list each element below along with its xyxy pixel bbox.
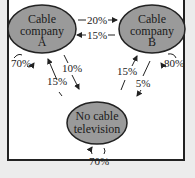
edge-a-self-loop: 70% <box>11 54 34 69</box>
svg-text:20%: 20% <box>87 14 107 26</box>
svg-text:10%: 10% <box>62 62 82 74</box>
svg-text:70%: 70% <box>11 57 31 69</box>
edge-n-to-b: 15% <box>117 56 137 90</box>
node-no-cable-television: No cable television <box>67 102 127 144</box>
svg-text:80%: 80% <box>164 57 184 69</box>
svg-text:15%: 15% <box>87 29 107 41</box>
edge-b-to-a: 15% <box>77 29 115 41</box>
node-cable-company-a: Cable company A <box>8 5 76 53</box>
svg-text:A: A <box>38 35 47 49</box>
svg-text:B: B <box>148 35 156 49</box>
svg-text:5%: 5% <box>136 77 151 89</box>
node-cable-company-b: Cable company B <box>119 5 185 53</box>
svg-text:70%: 70% <box>89 155 109 167</box>
svg-text:television: television <box>74 122 121 136</box>
svg-text:No cable: No cable <box>76 109 119 123</box>
edge-n-self-loop: 70% <box>89 147 109 167</box>
transition-diagram: Cable company A Cable company B No cable… <box>0 0 195 178</box>
edge-b-to-n: 5% <box>136 61 151 96</box>
edge-b-self-loop: 80% <box>161 54 184 69</box>
svg-text:15%: 15% <box>117 65 137 77</box>
edge-a-to-b: 20% <box>78 14 117 26</box>
svg-text:15%: 15% <box>47 75 67 87</box>
